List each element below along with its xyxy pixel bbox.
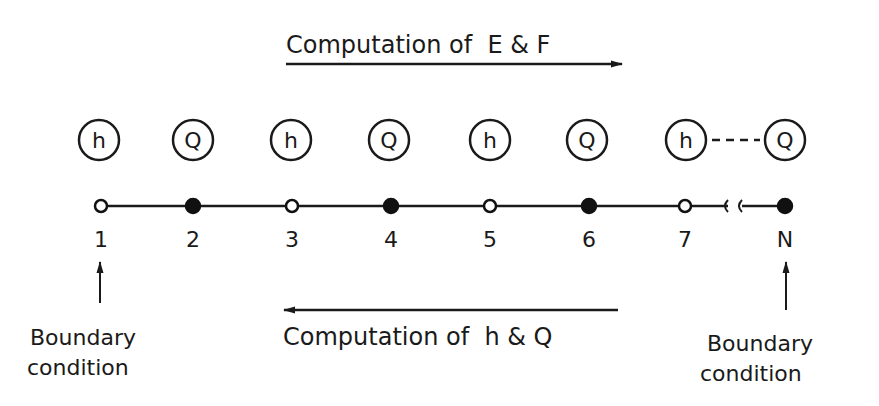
left-boundary-line2: condition xyxy=(27,355,129,380)
variable-label: Q xyxy=(578,128,595,153)
node-label: 7 xyxy=(678,227,692,252)
bottom-arrow-label: Computation of h & Q xyxy=(283,323,552,351)
variable-label: h xyxy=(679,128,693,153)
variable-circles: hQhQhQhQ xyxy=(79,120,805,160)
top-arrow-label: Computation of E & F xyxy=(286,31,550,59)
variable-label: Q xyxy=(776,128,793,153)
break-symbol-right xyxy=(739,200,742,212)
open-node xyxy=(286,200,298,212)
variable-label: Q xyxy=(184,128,201,153)
right-boundary-line1: Boundary xyxy=(707,331,813,356)
open-node xyxy=(484,200,496,212)
node-label: N xyxy=(777,227,793,252)
right-boundary-line2: condition xyxy=(700,361,802,386)
node-label: 5 xyxy=(483,227,497,252)
variable-label: h xyxy=(284,128,298,153)
node-label: 1 xyxy=(94,227,108,252)
filled-node xyxy=(778,199,792,213)
open-node xyxy=(95,200,107,212)
grid-diagram: Computation of E & F hQhQhQhQ 1234567N B… xyxy=(0,0,879,406)
node-label: 2 xyxy=(186,227,200,252)
variable-label: Q xyxy=(380,128,397,153)
node-label: 6 xyxy=(582,227,596,252)
left-boundary-line1: Boundary xyxy=(30,325,136,350)
open-node xyxy=(679,200,691,212)
variable-label: h xyxy=(483,128,497,153)
variable-label: h xyxy=(92,128,106,153)
node-label: 4 xyxy=(384,227,398,252)
filled-node xyxy=(384,199,398,213)
filled-node xyxy=(186,199,200,213)
node-label: 3 xyxy=(285,227,299,252)
filled-node xyxy=(582,199,596,213)
